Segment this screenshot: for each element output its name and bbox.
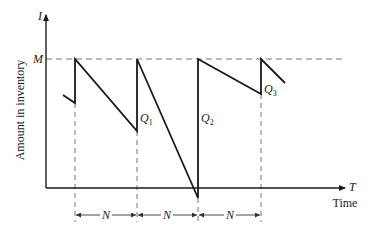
inventory-diagram: N N N I T Time Amount in inventory M Q1 … — [0, 0, 368, 236]
interval-label-1: N — [101, 208, 111, 222]
interval-label-3: N — [225, 208, 235, 222]
max-level-label: M — [32, 52, 44, 66]
order-label-q3: Q3 — [264, 82, 277, 98]
y-axis-label: Amount in inventory — [13, 60, 27, 161]
y-axis-symbol: I — [37, 9, 43, 23]
order-label-q1: Q1 — [140, 111, 153, 127]
interval-label-2: N — [162, 208, 172, 222]
x-axis-symbol: T — [349, 180, 357, 194]
x-axis-label: Time — [333, 196, 358, 210]
order-label-q2: Q2 — [201, 111, 214, 127]
inventory-curve — [63, 59, 285, 198]
